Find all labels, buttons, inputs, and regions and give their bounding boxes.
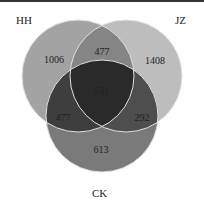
region-jz-ck: 292 [135, 112, 150, 123]
set-label-ck: CK [92, 187, 107, 199]
set-label-jz: JZ [175, 14, 186, 26]
region-ck-only: 613 [94, 144, 109, 155]
venn-diagram: HH JZ CK 1006 1408 477 531 477 292 613 [0, 0, 204, 205]
region-all: 531 [95, 85, 110, 96]
region-hh-jz: 477 [95, 46, 110, 57]
region-hh-ck: 477 [56, 112, 71, 123]
region-jz-only: 1408 [145, 55, 165, 66]
set-label-hh: HH [16, 14, 32, 26]
region-hh-only: 1006 [44, 54, 64, 65]
